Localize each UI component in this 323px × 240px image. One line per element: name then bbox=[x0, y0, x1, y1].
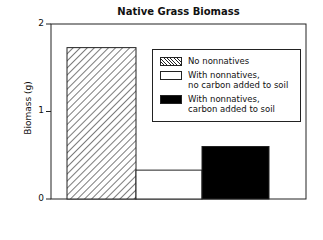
hatched-swatch-icon bbox=[160, 57, 182, 66]
bar-1 bbox=[136, 170, 202, 199]
bar-2 bbox=[202, 147, 269, 200]
bar-0 bbox=[67, 48, 136, 199]
white-swatch-icon bbox=[160, 71, 182, 80]
legend: No nonnatives With nonnatives,no carbon … bbox=[152, 49, 301, 122]
legend-item-no-carbon: With nonnatives,no carbon added to soil bbox=[160, 70, 288, 90]
legend-item-no-nonnatives: No nonnatives bbox=[160, 56, 249, 66]
legend-item-carbon: With nonnatives,carbon added to soil bbox=[160, 94, 275, 114]
black-swatch-icon bbox=[160, 95, 182, 104]
